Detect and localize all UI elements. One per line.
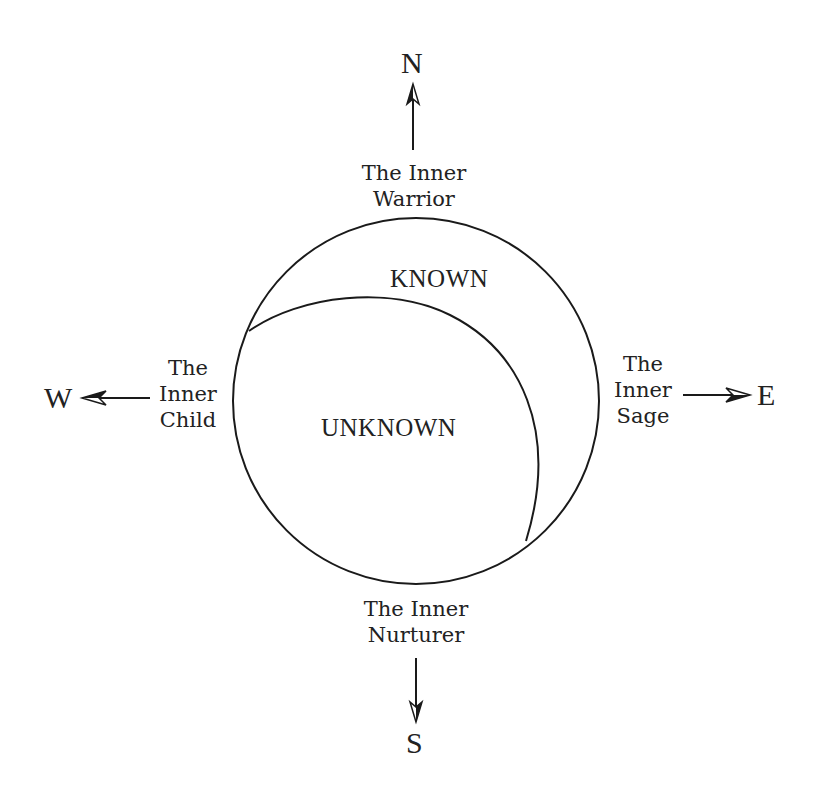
label-line: Inner (155, 381, 221, 407)
north-arrow-icon (407, 84, 419, 150)
label-line: The Inner (344, 596, 488, 622)
region-unknown: UNKNOWN (321, 414, 456, 442)
compass-diagram (0, 0, 814, 803)
label-inner-sage: The Inner Sage (610, 351, 676, 429)
label-line: The Inner (342, 160, 486, 186)
east-arrow-icon (683, 388, 750, 402)
region-known: KNOWN (390, 265, 488, 293)
label-line: Inner (610, 377, 676, 403)
label-inner-warrior: The Inner Warrior (342, 160, 486, 212)
label-line: The (610, 351, 676, 377)
direction-north: N (401, 48, 423, 78)
south-arrow-icon (410, 658, 422, 722)
label-line: Warrior (342, 186, 486, 212)
direction-east: E (757, 380, 775, 410)
direction-west: W (44, 383, 72, 413)
label-inner-nurturer: The Inner Nurturer (344, 596, 488, 648)
label-line: Sage (610, 403, 676, 429)
label-line: The (155, 355, 221, 381)
label-inner-child: The Inner Child (155, 355, 221, 433)
direction-south: S (406, 728, 423, 758)
label-line: Nurturer (344, 622, 488, 648)
label-line: Child (155, 407, 221, 433)
west-arrow-icon (82, 391, 150, 405)
